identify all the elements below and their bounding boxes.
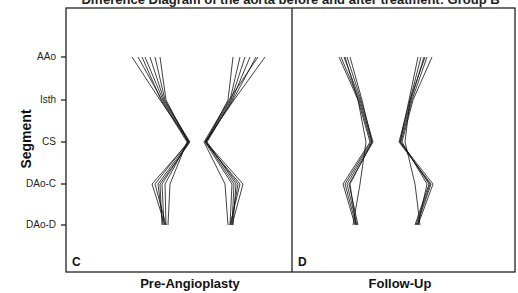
profile-line [399, 57, 431, 225]
profile-line [150, 57, 190, 225]
plot-frame [61, 8, 515, 272]
profile-line [207, 57, 250, 225]
x-axis-label-follow-up: Follow-Up [330, 276, 470, 291]
profile-line [405, 57, 425, 225]
profile-lines [132, 57, 433, 225]
profile-line [160, 57, 188, 225]
plot-area [0, 0, 518, 293]
profile-line [206, 57, 243, 225]
profile-line [341, 57, 371, 225]
profile-line [339, 57, 370, 225]
profile-line [145, 57, 189, 225]
panel-label-d: D [298, 255, 307, 269]
panel-label-c: C [72, 255, 81, 269]
profile-line [344, 57, 372, 225]
x-axis-label-pre-angioplasty: Pre-Angioplasty [110, 276, 270, 291]
